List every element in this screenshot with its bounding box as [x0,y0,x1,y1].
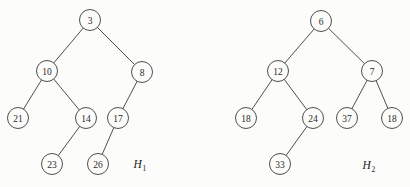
tree-edge [285,29,314,63]
tree-edge [97,27,134,64]
node-value: 23 [47,160,57,170]
node-value: 7 [370,67,375,77]
tree-node[interactable]: 18 [236,108,257,129]
tree-node[interactable]: 6 [311,11,332,32]
tree-node[interactable]: 26 [88,154,109,175]
tree-node[interactable]: 12 [268,61,289,82]
edges-layer [24,27,388,155]
tree-node[interactable]: 23 [42,154,63,175]
node-value: 18 [241,114,251,124]
tree-edge [102,128,114,155]
node-value: 24 [308,114,318,124]
tree-node[interactable]: 14 [76,108,97,129]
tree-name-subscript: 2 [371,165,375,174]
tree-edge [352,80,367,108]
tree-edge [123,81,137,108]
tree-node[interactable]: 7 [362,61,383,82]
tree-node[interactable]: 37 [337,108,358,129]
tree-edge [286,127,307,156]
heap-diagram-canvas: 3108211417232661271824371833 [0,0,410,187]
tree-node[interactable]: 3 [80,10,101,31]
tree-node[interactable]: 33 [270,154,291,175]
tree-edge [54,79,80,110]
tree-name-label: H2 [363,159,376,171]
tree-edge [376,81,388,109]
node-value: 17 [113,114,123,124]
tree-name-label: H1 [134,158,147,170]
node-value: 12 [273,67,283,77]
node-value: 3 [88,16,93,26]
node-value: 18 [387,114,397,124]
tree-edge [252,80,272,110]
node-value: 26 [93,160,103,170]
heap-figure: 3108211417232661271824371833 H1H2 [0,0,410,187]
node-value: 37 [342,114,352,124]
tree-node[interactable]: 17 [108,108,129,129]
tree-name-subscript: 1 [142,164,146,173]
tree-edge [58,126,80,155]
node-value: 21 [13,114,23,124]
nodes-layer: 3108211417232661271824371833 [8,10,403,175]
node-value: 14 [81,114,91,124]
tree-node[interactable]: 18 [382,108,403,129]
tree-edge [329,28,365,63]
node-value: 8 [140,68,145,78]
tree-node[interactable]: 8 [132,62,153,83]
tree-node[interactable]: 10 [37,61,58,82]
tree-node[interactable]: 21 [8,108,29,129]
node-value: 10 [42,67,52,77]
tree-name-base: H [134,158,143,170]
tree-edge [24,80,42,109]
tree-edge [54,28,83,63]
node-value: 6 [319,17,324,27]
tree-node[interactable]: 24 [303,108,324,129]
node-value: 33 [275,160,285,170]
tree-edge [284,79,306,109]
tree-name-base: H [363,159,372,171]
